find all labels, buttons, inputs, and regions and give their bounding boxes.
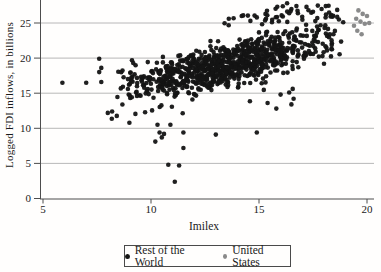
y-tick-label: 15	[20, 87, 32, 99]
legend-label-united-states: United States	[232, 244, 290, 268]
y-tick-label: 5	[26, 157, 32, 169]
y-tick-label: 20	[20, 52, 32, 64]
united-states-marker-icon	[223, 254, 228, 259]
legend-item-united-states: United States	[223, 244, 290, 268]
legend-label-rest-of-world: Rest of the World	[135, 244, 211, 268]
legend-item-rest-of-world: Rest of the World	[125, 244, 211, 268]
x-tick-label: 15	[254, 203, 266, 215]
y-tick-label: 0	[26, 192, 32, 204]
x-axis-label: Imilex	[189, 220, 219, 232]
x-tick-label: 10	[146, 203, 158, 215]
axes	[34, 0, 374, 204]
scatter-figure: 05101520255101520 Logged FDI inflows, in…	[0, 0, 381, 272]
y-axis-label: Logged FDI inflows, in billions	[3, 22, 15, 168]
x-tick-label: 20	[362, 203, 374, 215]
series-rest-of-world-points	[60, 1, 345, 184]
rest-of-world-marker-icon	[125, 254, 130, 259]
x-tick-label: 5	[40, 203, 46, 215]
tick-labels: 05101520255101520	[20, 17, 373, 215]
y-tick-label: 25	[20, 17, 32, 29]
y-tick-label: 10	[20, 122, 32, 134]
series-united-states-points	[352, 8, 372, 36]
legend: Rest of the World United States	[124, 245, 291, 267]
